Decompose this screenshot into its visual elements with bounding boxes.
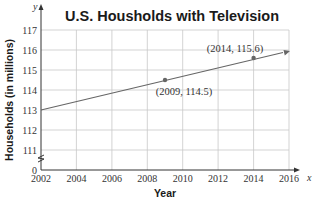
svg-text:2016: 2016 bbox=[279, 173, 299, 184]
svg-text:2004: 2004 bbox=[66, 173, 86, 184]
svg-text:116: 116 bbox=[22, 45, 37, 56]
data-point-2014 bbox=[251, 56, 255, 60]
annotation-2014: (2014, 115.6) bbox=[207, 43, 264, 55]
svg-text:2010: 2010 bbox=[173, 173, 193, 184]
x-variable-label: x bbox=[306, 172, 312, 183]
y-variable-label: y bbox=[32, 1, 38, 12]
data-line bbox=[41, 53, 283, 111]
svg-text:2014: 2014 bbox=[244, 173, 264, 184]
axis-break-icon bbox=[38, 155, 44, 162]
y-axis-arrow-icon bbox=[39, 4, 44, 10]
svg-text:112: 112 bbox=[22, 125, 37, 136]
svg-text:115: 115 bbox=[22, 65, 37, 76]
svg-text:111: 111 bbox=[23, 145, 37, 156]
svg-text:2006: 2006 bbox=[102, 173, 122, 184]
chart-title: U.S. Housholds with Television bbox=[65, 8, 279, 24]
x-axis-title: Year bbox=[154, 187, 176, 199]
chart: U.S. Housholds with Television y x 117 1… bbox=[0, 0, 319, 202]
svg-text:2008: 2008 bbox=[137, 173, 157, 184]
x-axis-arrow-icon bbox=[294, 168, 300, 173]
annotation-2009: (2009, 114.5) bbox=[156, 86, 213, 98]
svg-text:114: 114 bbox=[22, 85, 37, 96]
svg-text:2002: 2002 bbox=[31, 173, 51, 184]
svg-text:2012: 2012 bbox=[208, 173, 228, 184]
data-point-2009 bbox=[163, 78, 167, 82]
svg-text:113: 113 bbox=[22, 105, 37, 116]
svg-text:117: 117 bbox=[22, 25, 37, 36]
y-tick-labels: 117 116 115 114 113 112 111 0 bbox=[22, 25, 37, 176]
x-tick-labels: 2002 2004 2006 2008 2010 2012 2014 2016 bbox=[31, 173, 299, 184]
y-axis-title: Households (in millions) bbox=[3, 39, 15, 161]
